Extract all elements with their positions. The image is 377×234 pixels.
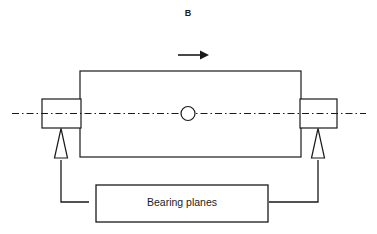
leader-line-right <box>269 160 318 202</box>
arrow-right-icon <box>178 51 209 60</box>
triangle-support-icon-right <box>312 129 325 159</box>
triangle-support-icon-left <box>55 129 68 159</box>
bearing-planes-label: Bearing planes <box>96 197 268 208</box>
section-label-b: B <box>0 9 377 18</box>
leader-line-left <box>61 160 89 202</box>
rotor-bearing-planes-diagram: B Bearing planes <box>0 0 377 234</box>
circle-mark-icon <box>181 107 195 121</box>
